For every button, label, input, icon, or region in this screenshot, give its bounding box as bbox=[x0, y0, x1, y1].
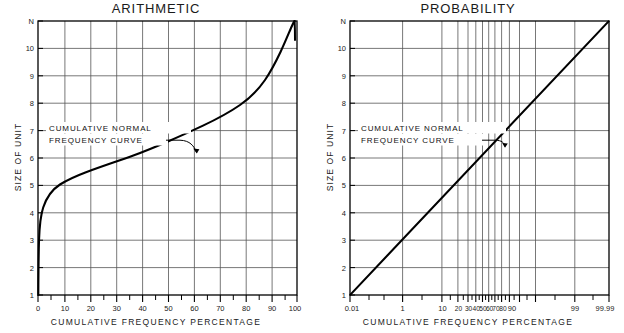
annotation-line2-probability: FREQUENCY CURVE bbox=[361, 136, 455, 145]
svg-text:0: 0 bbox=[36, 304, 40, 313]
svg-text:1: 1 bbox=[401, 304, 405, 313]
svg-text:9: 9 bbox=[342, 72, 346, 81]
svg-text:7: 7 bbox=[30, 127, 34, 136]
svg-text:6: 6 bbox=[342, 154, 346, 163]
svg-text:7: 7 bbox=[342, 127, 346, 136]
svg-text:4: 4 bbox=[342, 209, 346, 218]
svg-text:N: N bbox=[341, 17, 346, 26]
svg-text:80: 80 bbox=[499, 305, 507, 312]
svg-text:1: 1 bbox=[342, 291, 346, 300]
svg-text:8: 8 bbox=[342, 99, 346, 108]
svg-text:3: 3 bbox=[342, 236, 346, 245]
svg-text:60: 60 bbox=[190, 304, 198, 313]
svg-text:30: 30 bbox=[465, 305, 473, 312]
svg-text:8: 8 bbox=[30, 99, 34, 108]
annotation-line1-probability: CUMULATIVE NORMAL bbox=[361, 124, 464, 133]
svg-text:30: 30 bbox=[113, 304, 121, 313]
svg-text:5: 5 bbox=[342, 181, 346, 190]
gridlines-horizontal-arithmetic bbox=[38, 48, 297, 267]
svg-text:2: 2 bbox=[30, 264, 34, 273]
svg-text:10: 10 bbox=[26, 44, 34, 53]
svg-text:10: 10 bbox=[61, 304, 69, 313]
y-tick-labels-arithmetic: N 10 9 8 7 6 5 4 3 2 1 bbox=[26, 17, 34, 300]
y-ticks-probability bbox=[350, 21, 355, 295]
annotation-line2-arithmetic: FREQUENCY CURVE bbox=[49, 136, 143, 145]
svg-text:80: 80 bbox=[242, 304, 250, 313]
annotation-arrow-arithmetic bbox=[166, 140, 197, 152]
svg-text:10: 10 bbox=[438, 304, 446, 313]
svg-text:0.01: 0.01 bbox=[345, 304, 360, 313]
svg-text:99: 99 bbox=[571, 304, 579, 313]
svg-text:90: 90 bbox=[268, 304, 276, 313]
svg-text:20: 20 bbox=[87, 304, 95, 313]
x-tick-labels-probability: 0.01 1 10 20 30 40 50 60 70 80 90 99 99.… bbox=[345, 304, 615, 313]
plot-arithmetic: N 10 9 8 7 6 5 4 3 2 1 bbox=[0, 0, 312, 333]
annotation-arrowhead-probability bbox=[502, 143, 508, 148]
svg-text:90: 90 bbox=[508, 304, 516, 313]
y-tick-labels-probability: N 10 9 8 7 6 5 4 3 2 1 bbox=[338, 17, 346, 300]
svg-text:2: 2 bbox=[342, 264, 346, 273]
x-tick-labels-arithmetic: 0 10 20 30 40 50 60 70 80 90 100 bbox=[36, 304, 301, 313]
svg-text:9: 9 bbox=[30, 72, 34, 81]
svg-text:99.99: 99.99 bbox=[596, 304, 615, 313]
svg-text:70: 70 bbox=[216, 304, 224, 313]
svg-text:20: 20 bbox=[455, 305, 463, 312]
plot-probability: N 10 9 8 7 6 5 4 3 2 1 bbox=[312, 0, 624, 333]
chart-panel-arithmetic: ARITHMETIC SIZE OF UNIT CUMULATIVE FREQU… bbox=[0, 0, 312, 333]
svg-text:5: 5 bbox=[30, 181, 34, 190]
svg-text:N: N bbox=[29, 17, 34, 26]
annotation-probability: CUMULATIVE NORMAL FREQUENCY CURVE bbox=[358, 122, 508, 148]
svg-text:100: 100 bbox=[289, 304, 302, 313]
svg-text:4: 4 bbox=[30, 209, 34, 218]
svg-text:3: 3 bbox=[30, 236, 34, 245]
svg-text:10: 10 bbox=[338, 44, 346, 53]
annotation-line1-arithmetic: CUMULATIVE NORMAL bbox=[49, 124, 152, 133]
svg-text:1: 1 bbox=[30, 291, 34, 300]
svg-text:40: 40 bbox=[138, 304, 146, 313]
svg-text:50: 50 bbox=[164, 304, 172, 313]
svg-text:6: 6 bbox=[30, 154, 34, 163]
x-major-ticks-arithmetic bbox=[38, 295, 297, 302]
chart-panel-probability: PROBABILITY SIZE OF UNIT CUMULATIVE FREQ… bbox=[312, 0, 624, 333]
